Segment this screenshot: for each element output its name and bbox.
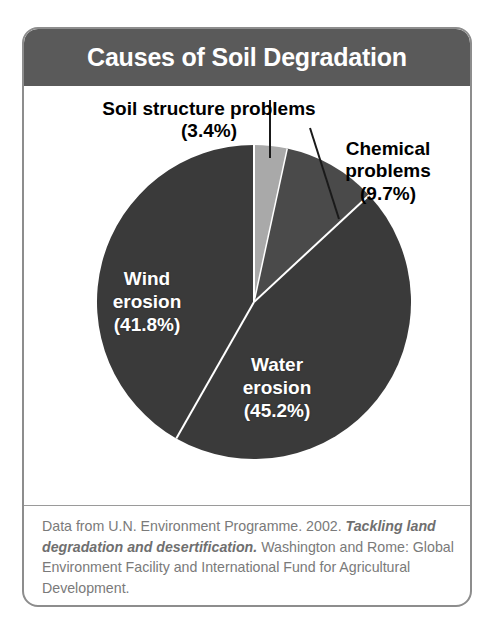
pie-label-water-name-line1: Water	[202, 354, 352, 377]
pie-label-wind-erosion: Wind erosion (41.8%)	[80, 268, 214, 336]
figure-card: Causes of Soil Degradation So	[22, 27, 472, 607]
pie-label-wind-name-line1: Wind	[80, 268, 214, 291]
pie-label-chemical-problems: Chemical problems (9.7%)	[312, 138, 464, 205]
pie-label-soil-structure-problems: Soil structure problems (3.4%)	[49, 98, 369, 143]
figure-caption: Data from U.N. Environment Programme. 20…	[42, 516, 454, 598]
pie-label-soil-structure-name: Soil structure problems	[49, 98, 369, 120]
pie-label-water-erosion: Water erosion (45.2%)	[202, 354, 352, 422]
caption-text-part1: Data from U.N. Environment Programme. 20…	[42, 518, 346, 534]
pie-chart: Soil structure problems (3.4%) Chemical …	[24, 86, 470, 506]
pie-label-chemical-value: (9.7%)	[312, 183, 464, 205]
caption-divider	[24, 505, 470, 506]
page-title: Causes of Soil Degradation	[87, 43, 407, 72]
pie-label-wind-name-line2: erosion	[80, 291, 214, 314]
pie-label-water-name-line2: erosion	[202, 377, 352, 400]
pie-label-chemical-name-line1: Chemical	[312, 138, 464, 160]
pie-label-water-value: (45.2%)	[202, 400, 352, 423]
pie-label-chemical-name-line2: problems	[312, 160, 464, 182]
figure-title-bar: Causes of Soil Degradation	[24, 29, 470, 86]
pie-label-wind-value: (41.8%)	[80, 314, 214, 337]
